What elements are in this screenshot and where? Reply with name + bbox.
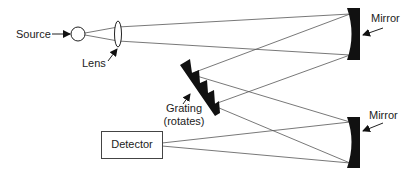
lens-ellipse — [115, 21, 122, 47]
source-label: Source — [16, 28, 51, 41]
monochromator-diagram: Source Lens Mirror Grating (rotates) Mir… — [0, 0, 412, 175]
source-circle — [71, 27, 85, 41]
mirror-top-shape — [347, 8, 360, 60]
mirror-bottom-arrow — [363, 123, 383, 131]
grating-label: Grating (rotates) — [160, 102, 208, 128]
lens-arrow — [108, 49, 117, 61]
diagram-canvas — [0, 0, 412, 175]
mirror-bottom-label: Mirror — [369, 109, 398, 122]
grating-label-line1: Grating — [160, 102, 208, 115]
detector-label: Detector — [101, 138, 163, 151]
mirror-top-label: Mirror — [371, 12, 400, 25]
lens-label: Lens — [82, 57, 106, 70]
mirror-top-arrow — [363, 28, 383, 35]
mirror-bottom-shape — [347, 117, 360, 168]
grating-label-line2: (rotates) — [160, 115, 208, 128]
